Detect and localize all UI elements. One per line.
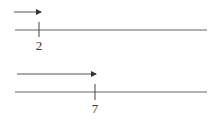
tick-label: 7 [92,101,99,116]
number-line-diagram: 2 7 [0,0,217,120]
panel-top: 2 [14,12,207,53]
tick-label: 2 [36,38,43,53]
panel-bottom: 7 [15,74,207,116]
